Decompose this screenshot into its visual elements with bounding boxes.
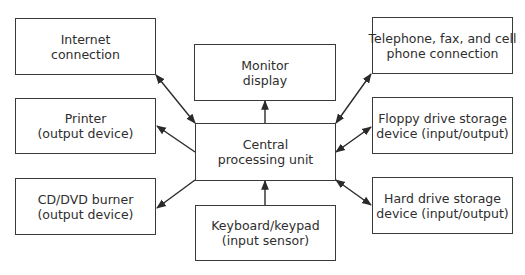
node-label-line2: display bbox=[243, 73, 287, 88]
node-label-line2: (output device) bbox=[37, 207, 133, 222]
node-label-line1: Keyboard/keypad bbox=[211, 218, 319, 233]
node-label-line1: Internet bbox=[61, 32, 111, 47]
node-label-line1: Hard drive storage bbox=[384, 191, 501, 206]
node-central-processing-unit: Central processing unit bbox=[195, 123, 336, 181]
node-label-line2: (output device) bbox=[37, 126, 133, 141]
arrow-cpu-floppy bbox=[336, 127, 371, 152]
node-label-line2: phone connection bbox=[387, 46, 499, 61]
node-label-line1: Central bbox=[243, 137, 289, 152]
node-label-line2: device (input/output) bbox=[376, 126, 508, 141]
node-label-line2: device (input/output) bbox=[376, 206, 508, 221]
node-label-line1: Floppy drive storage bbox=[378, 111, 507, 126]
arrow-cpu-printer bbox=[157, 126, 195, 152]
node-internet-connection: Internet connection bbox=[15, 18, 156, 75]
node-printer: Printer (output device) bbox=[15, 98, 156, 154]
node-label-line2: (input sensor) bbox=[222, 233, 309, 248]
arrow-cpu-harddrive bbox=[336, 180, 371, 205]
arrow-cpu-telephone bbox=[336, 74, 371, 123]
node-label-line2: connection bbox=[51, 47, 120, 62]
node-label-line1: Telephone, fax, and cell bbox=[369, 31, 517, 46]
node-label-line1: CD/DVD burner bbox=[38, 192, 134, 207]
node-keyboard-keypad: Keyboard/keypad (input sensor) bbox=[195, 205, 336, 261]
node-label-line1: Printer bbox=[65, 111, 107, 126]
node-hard-drive-storage: Hard drive storage device (input/output) bbox=[372, 177, 513, 234]
node-telephone-fax-cell: Telephone, fax, and cell phone connectio… bbox=[372, 17, 513, 74]
node-cd-dvd-burner: CD/DVD burner (output device) bbox=[15, 178, 156, 235]
node-floppy-drive-storage: Floppy drive storage device (input/outpu… bbox=[372, 97, 513, 154]
diagram-canvas: Internet connection Printer (output devi… bbox=[0, 0, 525, 275]
node-monitor-display: Monitor display bbox=[194, 44, 336, 101]
node-label-line2: processing unit bbox=[218, 152, 314, 167]
node-label-line1: Monitor bbox=[241, 58, 289, 73]
arrow-cpu-cddvd bbox=[157, 180, 195, 208]
arrow-cpu-internet bbox=[156, 75, 195, 123]
